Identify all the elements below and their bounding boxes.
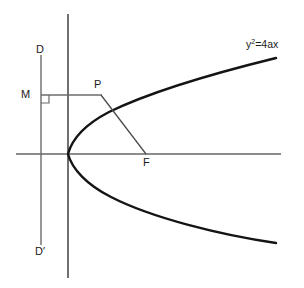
label-point-p: P — [94, 79, 101, 90]
label-directrix-top: D — [36, 44, 44, 55]
label-equation: y2=4ax — [246, 39, 278, 50]
segment-p-to-f — [101, 95, 146, 154]
label-focus-f: F — [143, 157, 150, 168]
right-angle-marker-icon — [41, 95, 49, 103]
label-directrix-bottom: D′ — [35, 246, 45, 257]
parabola-figure: D D′ M P F y2=4ax — [0, 0, 304, 288]
equation-rest: =4ax — [255, 38, 278, 50]
label-point-m: M — [21, 89, 30, 100]
